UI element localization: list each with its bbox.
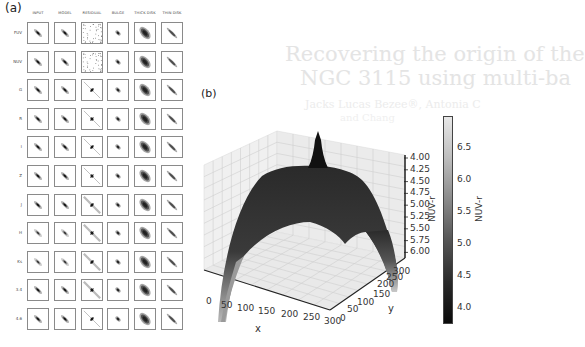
z-tick-label: 5.50 [410,223,430,233]
z-tick-label: 4.25 [410,164,430,174]
colorbar-tick-label: 4.0 [457,302,471,312]
y-tick-label: 150 [373,289,390,299]
z-axis-label: NUV-r [427,196,437,222]
x-tick-label: 0 [206,296,212,306]
colorbar-tick-label: 5.5 [457,206,471,216]
z-tick-label: 4.00 [410,152,430,162]
y-tick-label: 100 [357,297,374,307]
x-tick-label: 50 [221,300,232,310]
colorbar-tick-label: 4.5 [457,270,471,280]
z-tick-label: 6.00 [410,246,430,256]
y-tick-label: 300 [393,266,410,276]
z-tick-label: 5.75 [410,235,430,245]
x-tick-label: 100 [237,303,254,313]
x-axis-label: x [255,323,261,334]
colorbar-label: NUV-r [474,196,484,222]
y-tick-label: 0 [340,313,346,323]
y-axis-label: y [388,303,394,314]
x-tick-label: 300 [324,316,341,326]
x-tick-label: 250 [303,312,320,322]
x-tick-label: 150 [258,306,275,316]
colorbar-tick-label: 6.5 [457,142,471,152]
z-tick-label: 4.50 [410,176,430,186]
colorbar-tick-label: 5.0 [457,238,471,248]
x-tick-label: 200 [281,309,298,319]
colorbar [443,116,453,324]
colorbar-tick-label: 6.0 [457,174,471,184]
